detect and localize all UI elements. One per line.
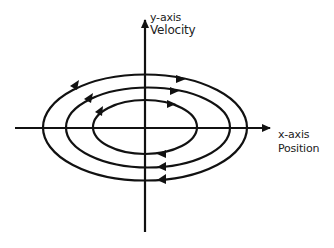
arrow-right-icon	[167, 100, 176, 108]
direction-arrow-icons	[70, 75, 186, 184]
phase-diagram	[0, 0, 334, 248]
y-axis-quantity-label: Velocity	[150, 24, 195, 37]
arrow-right-icon	[170, 87, 179, 95]
x-axis-quantity-label: Position	[278, 142, 319, 155]
arrow-left-icon	[157, 162, 166, 171]
arrow-left-icon	[157, 150, 166, 158]
x-axis-label: x-axis	[278, 128, 309, 141]
arrow-right-icon	[176, 75, 186, 83]
